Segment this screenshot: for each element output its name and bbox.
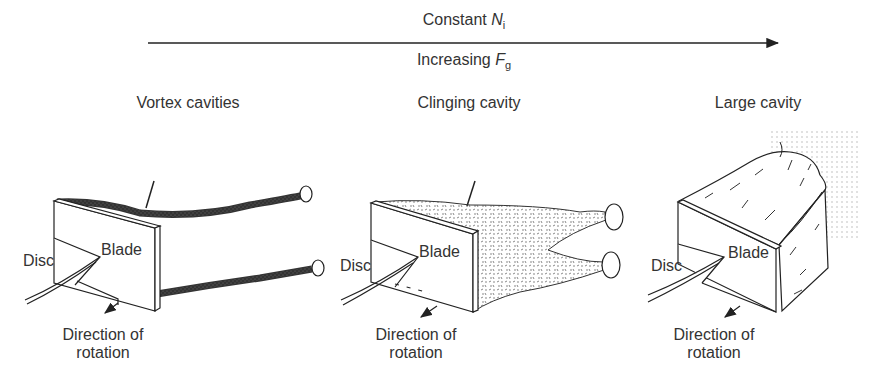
blade-label-3: Blade [728, 244, 769, 262]
disc-label-1: Disc [23, 252, 54, 270]
increasing-fg-label: Increasing Fg [417, 51, 511, 71]
vortex-cavities-drawing [25, 181, 324, 313]
disc-label-3: Disc [651, 257, 682, 275]
direction-label-3: Direction of rotation [674, 326, 755, 362]
clinging-cavity-drawing [341, 181, 623, 317]
direction-label-1: Direction of rotation [63, 326, 144, 362]
blade-label-2: Blade [419, 243, 460, 261]
direction-label-2: Direction of rotation [376, 326, 457, 362]
constant-ni-label: Constant Ni [423, 11, 506, 31]
panel-title-large: Large cavity [715, 94, 801, 112]
disc-label-2: Disc [340, 257, 371, 275]
large-cavity-drawing [648, 128, 860, 317]
panel-title-clinging: Clinging cavity [417, 94, 520, 112]
panel-title-vortex: Vortex cavities [136, 94, 239, 112]
blade-label-1: Blade [101, 241, 142, 259]
